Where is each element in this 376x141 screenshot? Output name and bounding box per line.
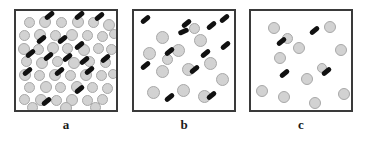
panel-a: a [14, 0, 118, 141]
sphere-particle [309, 97, 321, 109]
panel-b-contents [134, 11, 234, 110]
dumbbell-particle [164, 92, 176, 103]
sphere-particle [108, 69, 116, 79]
panel-a-contents [16, 11, 116, 110]
sphere-particle [90, 102, 101, 110]
sphere-particle [194, 34, 207, 47]
sphere-particle [27, 102, 38, 110]
panel-b: b [132, 0, 236, 141]
sphere-particle [40, 81, 52, 93]
sphere-particle [293, 42, 305, 54]
sphere-particle [34, 70, 45, 81]
panel-label-b: b [132, 118, 236, 132]
sphere-particle [156, 65, 169, 78]
sphere-particle [19, 30, 30, 41]
sphere-particle [274, 52, 286, 64]
dumbbell-particle [309, 25, 321, 36]
sphere-particle [109, 29, 116, 39]
panel-b-box [132, 9, 236, 112]
sphere-particle [66, 29, 78, 41]
sphere-particle [52, 56, 63, 67]
sphere-particle [60, 102, 72, 110]
particle-concentration-figure: abc [0, 0, 376, 141]
sphere-particle [216, 73, 229, 86]
sphere-particle [278, 91, 290, 103]
sphere-particle [24, 82, 35, 93]
panel-c: c [249, 0, 353, 141]
panel-label-a: a [14, 118, 118, 132]
panel-c-box [249, 9, 353, 112]
dumbbell-particle [206, 20, 218, 31]
sphere-particle [324, 21, 336, 33]
sphere-particle [24, 17, 35, 28]
sphere-particle [82, 30, 93, 41]
sphere-particle [102, 83, 113, 94]
sphere-particle [87, 82, 98, 93]
sphere-particle [204, 57, 217, 70]
sphere-particle [143, 47, 156, 60]
panel-c-contents [251, 11, 351, 110]
sphere-particle [335, 44, 347, 56]
sphere-particle [301, 73, 313, 85]
sphere-particle [189, 23, 200, 34]
sphere-particle [97, 31, 108, 42]
sphere-particle [55, 82, 66, 93]
dumbbell-particle [220, 40, 232, 51]
dumbbell-particle [279, 68, 291, 79]
dumbbell-particle [219, 13, 231, 24]
sphere-particle [338, 88, 350, 100]
panel-label-c: c [249, 118, 353, 132]
dumbbell-particle [140, 14, 152, 25]
dumbbell-particle [177, 27, 189, 36]
dumbbell-particle [140, 60, 152, 71]
sphere-particle [256, 85, 268, 97]
sphere-particle [177, 84, 190, 97]
sphere-particle [65, 70, 76, 81]
sphere-particle [147, 86, 160, 99]
panel-a-box [14, 9, 118, 112]
sphere-particle [156, 31, 169, 44]
sphere-particle [268, 22, 280, 34]
sphere-particle [62, 43, 73, 54]
sphere-particle [96, 70, 107, 81]
sphere-particle [93, 43, 104, 54]
sphere-particle [56, 17, 67, 28]
